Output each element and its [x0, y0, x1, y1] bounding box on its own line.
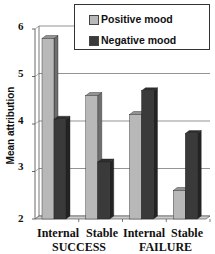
legend-label-positive: Positive mood: [101, 13, 173, 25]
y-tick-4: 4: [18, 114, 24, 126]
x-category-failure-stable: Stable: [171, 226, 203, 241]
legend-item-positive: Positive mood: [101, 13, 173, 25]
legend-swatch-positive: [89, 15, 99, 25]
bar-positive-mood: [173, 191, 185, 220]
x-category-failure-internal: Internal: [123, 226, 165, 241]
legend: Positive mood Negative mood: [74, 4, 210, 50]
x-group-success: SUCCESS: [52, 240, 106, 254]
y-tick-3: 3: [18, 160, 24, 172]
bar-negative-mood: [98, 162, 110, 219]
bar-negative-mood: [54, 119, 66, 219]
bar-positive-mood: [86, 96, 98, 220]
bar-positive-mood: [130, 115, 142, 220]
bar-negative-mood: [142, 91, 154, 219]
y-axis-label: Mean attribution: [5, 87, 16, 165]
legend-item-negative: Negative mood: [101, 34, 176, 46]
x-group-failure: FAILURE: [139, 240, 192, 254]
x-category-success-stable: Stable: [86, 226, 118, 241]
legend-swatch-negative: [89, 36, 99, 46]
bar-positive-mood: [42, 39, 54, 220]
legend-label-negative: Negative mood: [101, 34, 176, 46]
x-category-success-internal: Internal: [37, 226, 79, 241]
bar-negative-mood: [185, 134, 197, 220]
y-tick-6: 6: [18, 20, 24, 32]
y-tick-2: 2: [18, 212, 24, 224]
y-tick-5: 5: [18, 67, 24, 79]
bar-chart: Mean attribution 6 5 4 3 2 Positive mood…: [0, 0, 215, 254]
